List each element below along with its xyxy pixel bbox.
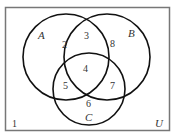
venn-diagram: A B C U 2 3 8 4 5 7 6 1 (0, 0, 173, 136)
set-label-b: B (128, 27, 135, 39)
region-a-and-b-only: 3 (84, 30, 89, 41)
region-b-and-c-only: 7 (110, 80, 115, 91)
set-label-c: C (85, 111, 93, 123)
region-c-only: 6 (86, 98, 91, 109)
region-outside: 1 (12, 118, 17, 129)
region-a-b-c: 4 (83, 63, 88, 74)
region-a-only: 2 (62, 39, 67, 50)
region-a-and-c-only: 5 (63, 80, 68, 91)
region-b-only: 8 (110, 38, 115, 49)
universe-label: U (155, 117, 164, 129)
set-label-a: A (37, 29, 45, 41)
